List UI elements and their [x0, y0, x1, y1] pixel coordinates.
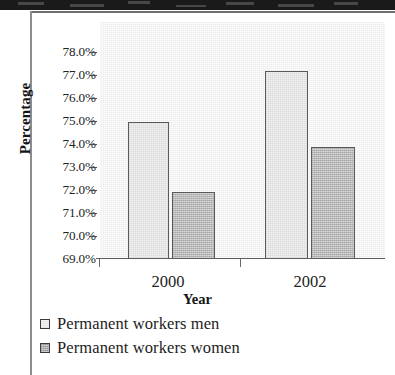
y-axis-tick-label: 73.0%	[40, 159, 96, 175]
legend-item-men: Permanent workers men	[40, 312, 370, 336]
bar-men-2002	[265, 71, 308, 259]
y-axis-tick-mark	[89, 213, 97, 214]
y-axis-tick-label: 77.0%	[40, 67, 96, 83]
x-axis-title: Year	[0, 291, 395, 308]
y-axis-tick-mark	[89, 144, 97, 145]
y-axis-tick-label: 72.0%	[40, 182, 96, 198]
legend-label-women: Permanent workers women	[57, 338, 240, 358]
x-axis-tick-label-2002: 2002	[270, 272, 350, 292]
bar-women-2000	[172, 192, 215, 259]
light-square-swatch-icon	[40, 319, 50, 329]
scanned-chart-page: Percentage 78.0% 77.0% 76.0% 75.0% 74.0%…	[0, 0, 395, 375]
bar-chart: Percentage 78.0% 77.0% 76.0% 75.0% 74.0%…	[0, 0, 395, 375]
y-axis-tick-label: 71.0%	[40, 205, 96, 221]
y-axis-tick-label: 70.0%	[40, 228, 96, 244]
y-axis-tick-mark	[89, 190, 97, 191]
y-axis-tick-mark	[89, 52, 97, 53]
x-axis-origin-tick	[99, 259, 100, 267]
legend-item-women: Permanent workers women	[40, 336, 370, 360]
bar-men-2000	[128, 122, 169, 259]
y-axis-tick-mark	[89, 75, 97, 76]
x-axis-tick-mark	[240, 259, 241, 267]
y-axis-tick-mark	[89, 167, 97, 168]
y-axis-tick-mark	[89, 98, 97, 99]
y-axis-tick-label: 78.0%	[40, 44, 96, 60]
x-axis-tick-label-2000: 2000	[128, 272, 208, 292]
y-axis-tick-label: 76.0%	[40, 90, 96, 106]
y-axis-tick-label: 69.0%	[40, 251, 96, 267]
y-axis-tick-label: 75.0%	[40, 113, 96, 129]
bar-women-2002	[311, 147, 355, 259]
y-axis-tick-mark	[89, 236, 97, 237]
y-axis-tick-label: 74.0%	[40, 136, 96, 152]
y-axis-tick-mark	[89, 121, 97, 122]
dark-square-swatch-icon	[40, 343, 50, 353]
chart-legend: Permanent workers men Permanent workers …	[40, 312, 370, 360]
y-axis-title: Percentage	[17, 64, 34, 174]
legend-label-men: Permanent workers men	[57, 314, 219, 334]
